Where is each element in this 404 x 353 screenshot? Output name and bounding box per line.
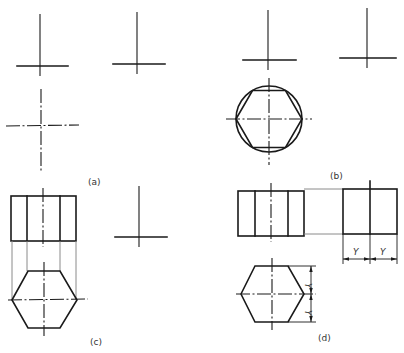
panel-label-c: (c) xyxy=(90,337,102,347)
front-view-centre-cross xyxy=(17,14,68,76)
front-view-centre-cross xyxy=(243,10,296,70)
panel-label-d: (d) xyxy=(318,333,331,343)
projection-lines xyxy=(304,189,343,234)
side-view-centre-cross xyxy=(340,8,396,68)
dimension-y-lower: Y xyxy=(303,310,313,317)
front-view xyxy=(238,183,304,242)
orthographic-hexagon-figure: (a) (b) xyxy=(0,0,404,353)
dimension-y-right: Y xyxy=(380,247,387,257)
top-view-centre-cross xyxy=(6,89,79,172)
hexagon-in-circle xyxy=(226,78,312,165)
side-view-centre-cross xyxy=(115,186,167,247)
panel-a: (a) xyxy=(6,12,165,187)
hexagon-top-view: Y Y xyxy=(236,258,316,330)
dimension-y-left: Y xyxy=(353,247,360,257)
panel-c: (c) xyxy=(8,186,167,347)
side-view-centre-cross xyxy=(113,12,165,74)
panel-label-a: (a) xyxy=(88,177,101,187)
front-view xyxy=(11,188,76,247)
side-view: Y Y xyxy=(343,181,397,264)
panel-b: (b) xyxy=(226,8,396,181)
panel-label-b: (b) xyxy=(330,171,343,181)
panel-d: Y Y Y Y (d) xyxy=(236,181,397,343)
